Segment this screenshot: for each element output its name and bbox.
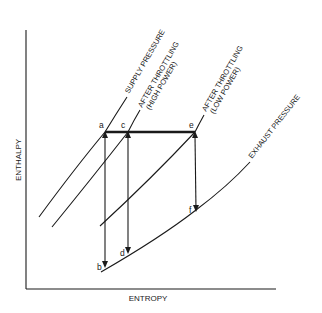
point-labels: a c e b d f	[97, 120, 194, 272]
point-d: d	[120, 248, 125, 258]
x-axis-label: ENTROPY	[129, 294, 168, 303]
expansion-lines	[105, 136, 196, 266]
enthalpy-entropy-diagram: ENTHALPY ENTROPY SUPPLY PRESSURE AFTER T…	[0, 0, 322, 313]
curve-labels: SUPPLY PRESSURE AFTER THROTTLING (HIGH P…	[123, 28, 302, 160]
curve-high-power	[52, 110, 140, 227]
arrow-down-icon	[102, 261, 108, 268]
arrowheads	[102, 131, 199, 268]
point-b: b	[97, 262, 102, 272]
pressure-curves	[39, 97, 250, 272]
point-e: e	[189, 120, 194, 130]
arrow-down-icon	[125, 247, 131, 254]
curve-supply-pressure	[39, 97, 127, 217]
expansion-e-f	[195, 136, 196, 210]
point-c: c	[121, 120, 126, 130]
y-axis-label: ENTHALPY	[14, 138, 23, 181]
point-a: a	[99, 120, 104, 130]
label-exhaust-pressure: EXHAUST PRESSURE	[246, 93, 302, 161]
